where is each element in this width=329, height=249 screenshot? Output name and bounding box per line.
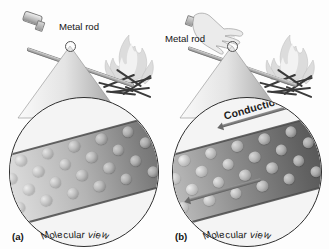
panel-b: Conduction Metal rod (b) Molecular view	[164, 0, 329, 249]
molecule	[128, 154, 142, 168]
molecule	[230, 140, 244, 154]
rod-cross-section-a	[10, 105, 158, 237]
molecule	[185, 183, 199, 197]
molecule	[14, 154, 28, 168]
molecule-grid-b	[173, 105, 321, 237]
molecule	[84, 151, 98, 165]
molecule	[10, 172, 18, 186]
molecule	[274, 143, 288, 157]
molecule	[119, 172, 133, 186]
panel-letter-b: (b)	[175, 231, 187, 242]
molecule	[121, 125, 135, 139]
focus-point-icon	[227, 41, 238, 52]
molecular-view-caption-b: Molecular view	[205, 229, 269, 240]
molecule-grid-a	[10, 105, 158, 237]
molecule	[138, 136, 152, 150]
molecule	[257, 133, 271, 147]
molecule	[31, 165, 45, 179]
molecule	[155, 147, 158, 161]
molecule	[92, 179, 106, 193]
molecule	[147, 118, 158, 132]
molecule	[75, 169, 89, 183]
molecule	[67, 140, 81, 154]
molecule	[145, 165, 158, 179]
molecule	[247, 151, 261, 165]
molecule	[318, 147, 321, 161]
molecule	[48, 176, 62, 190]
molecule	[291, 154, 305, 168]
molecule	[310, 118, 321, 132]
rod-cross-section-b	[173, 105, 321, 237]
molecular-view-circle-b: Conduction	[172, 97, 322, 247]
rod-ferrule-icon	[35, 20, 46, 32]
molecule	[282, 172, 296, 186]
molecule	[221, 158, 235, 172]
focus-point-icon	[65, 41, 76, 52]
metal-rod-label-b: Metal rod	[165, 33, 205, 44]
molecule	[58, 158, 72, 172]
molecule	[65, 187, 79, 201]
molecule	[173, 172, 181, 186]
heat-conduction-figure: Metal rod (a) Molecular view	[0, 0, 329, 249]
molecule	[203, 147, 217, 161]
molecular-view-circle-a	[9, 97, 159, 247]
molecule	[94, 133, 108, 147]
molecule	[39, 194, 53, 208]
panel-a: Metal rod (a) Molecular view	[0, 0, 165, 249]
metal-rod-label-a: Metal rod	[59, 21, 99, 32]
molecule	[111, 143, 125, 157]
molecule	[265, 161, 279, 175]
molecule	[12, 201, 26, 215]
panel-letter-a: (a)	[12, 231, 24, 242]
molecule	[22, 183, 36, 197]
molecular-view-caption-a: Molecular view	[43, 229, 107, 240]
molecule	[194, 165, 208, 179]
molecule	[177, 154, 191, 168]
molecule	[102, 161, 116, 175]
molecule	[301, 136, 315, 150]
molecule	[40, 147, 54, 161]
molecule	[308, 165, 321, 179]
molecule	[284, 125, 298, 139]
